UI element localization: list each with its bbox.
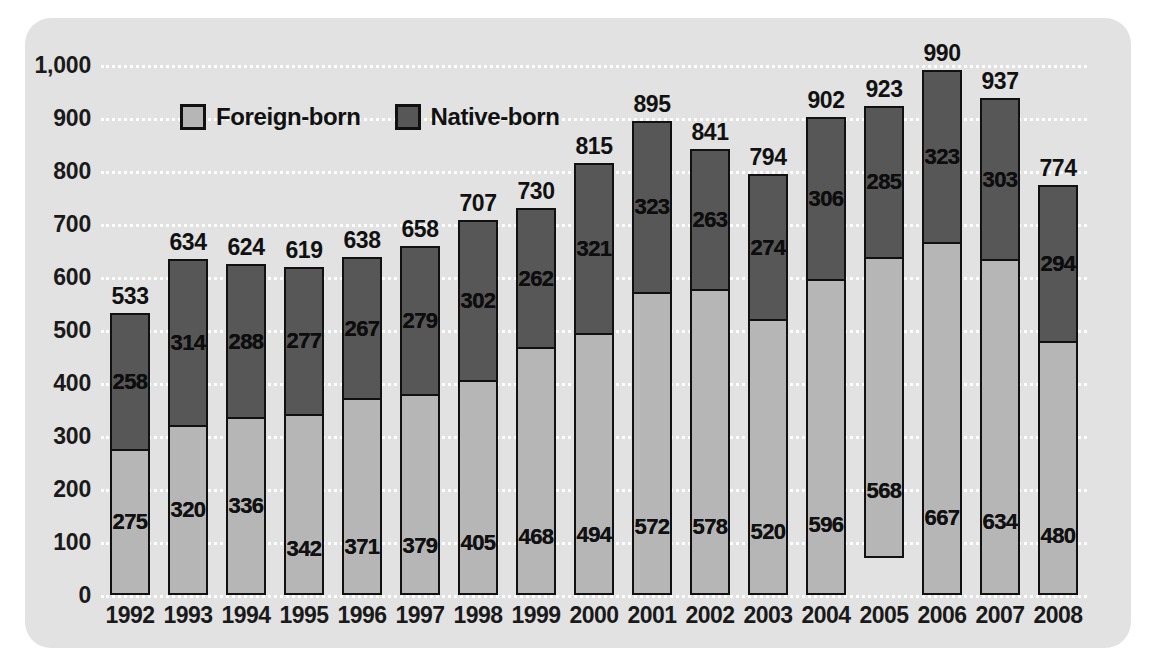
- x-axis-tick-label: 2000: [569, 602, 618, 629]
- bar-column[interactable]: 6343143201993: [168, 259, 208, 595]
- bar-segment-native-born[interactable]: 302: [458, 220, 498, 380]
- bar-segment-value-foreign-born: 320: [170, 499, 205, 521]
- bar-segment-foreign-born[interactable]: 342: [284, 414, 324, 595]
- x-axis-tick-label: 1999: [511, 602, 560, 629]
- bar-segment-value-foreign-born: 405: [460, 532, 495, 554]
- bar-segment-native-born[interactable]: 267: [342, 257, 382, 399]
- bar-segment-value-native-born: 294: [1040, 253, 1075, 275]
- bar-segment-value-native-born: 323: [634, 196, 669, 218]
- bar-column[interactable]: 5332582751992: [110, 313, 150, 595]
- x-axis-tick-label: 1998: [453, 602, 502, 629]
- bar-segment-foreign-born[interactable]: 520: [748, 319, 788, 595]
- bar-stack[interactable]: 624288336: [226, 264, 266, 595]
- bar-segment-value-foreign-born: 520: [750, 521, 785, 543]
- bar-stack[interactable]: 533258275: [110, 313, 150, 595]
- chart-panel: Foreign-born Native-born 010020030040050…: [25, 18, 1131, 648]
- legend-item-native-born[interactable]: Native-born: [395, 103, 560, 131]
- bar-segment-native-born[interactable]: 285: [864, 106, 904, 257]
- bar-segment-native-born[interactable]: 321: [574, 163, 614, 333]
- bar-column[interactable]: 7942745202003: [748, 174, 788, 595]
- bar-total-label: 707: [460, 190, 497, 217]
- bar-segment-native-born[interactable]: 323: [632, 121, 672, 292]
- bar-segment-foreign-born[interactable]: 405: [458, 380, 498, 595]
- bar-segment-foreign-born[interactable]: 572: [632, 292, 672, 595]
- bar-segment-native-born[interactable]: 262: [516, 208, 556, 347]
- bar-stack[interactable]: 634314320: [168, 259, 208, 595]
- bar-column[interactable]: 6192773421995: [284, 267, 324, 595]
- x-axis-tick-label: 1995: [279, 602, 328, 629]
- bar-segment-foreign-born[interactable]: 667: [922, 242, 962, 596]
- bar-segment-foreign-born[interactable]: 634: [980, 259, 1020, 595]
- bar-column[interactable]: 8153214942000: [574, 163, 614, 595]
- bar-column[interactable]: 6382673711996: [342, 257, 382, 595]
- bar-column[interactable]: 8412635782002: [690, 149, 730, 595]
- bar-column[interactable]: 9903236672006: [922, 70, 962, 595]
- bar-segment-foreign-born[interactable]: 578: [690, 289, 730, 595]
- bar-segment-foreign-born[interactable]: 320: [168, 425, 208, 595]
- legend-swatch-native-born-icon: [395, 104, 421, 130]
- bar-total-label: 815: [576, 133, 613, 160]
- bar-segment-foreign-born[interactable]: 336: [226, 417, 266, 595]
- bar-segment-value-foreign-born: 578: [692, 516, 727, 538]
- bar-segment-native-born[interactable]: 323: [922, 70, 962, 241]
- bar-segment-native-born[interactable]: 303: [980, 98, 1020, 259]
- bar-segment-native-born[interactable]: 314: [168, 259, 208, 425]
- bar-segment-foreign-born[interactable]: 596: [806, 279, 846, 595]
- bar-segment-native-born[interactable]: 263: [690, 149, 730, 288]
- legend-swatch-foreign-born-icon: [180, 104, 206, 130]
- bar-stack[interactable]: 895323572: [632, 121, 672, 595]
- bar-segment-native-born[interactable]: 279: [400, 246, 440, 394]
- y-axis-tick-label: 300: [53, 423, 91, 450]
- bar-total-label: 619: [286, 237, 323, 264]
- bar-stack[interactable]: 794274520: [748, 174, 788, 595]
- bar-column[interactable]: 9023065962004: [806, 117, 846, 595]
- bar-column[interactable]: 8953235722001: [632, 121, 672, 595]
- legend-item-foreign-born[interactable]: Foreign-born: [180, 103, 361, 131]
- y-axis-tick-label: 900: [53, 105, 91, 132]
- bar-segment-foreign-born[interactable]: 371: [342, 398, 382, 595]
- bar-segment-foreign-born[interactable]: 468: [516, 347, 556, 595]
- bar-segment-value-foreign-born: 480: [1040, 525, 1075, 547]
- bar-stack[interactable]: 774294480: [1038, 185, 1078, 595]
- bar-column[interactable]: 6582793791997: [400, 246, 440, 595]
- bar-total-label: 841: [692, 119, 729, 146]
- bar-total-label: 794: [750, 144, 787, 171]
- bar-segment-native-born[interactable]: 258: [110, 313, 150, 450]
- bar-segment-native-born[interactable]: 277: [284, 267, 324, 414]
- x-axis-tick-label: 1992: [105, 602, 154, 629]
- bar-total-label: 638: [344, 227, 381, 254]
- bar-stack[interactable]: 619277342: [284, 267, 324, 595]
- bar-stack[interactable]: 730262468: [516, 208, 556, 595]
- bar-column[interactable]: 7302624681999: [516, 208, 556, 595]
- bar-segment-value-foreign-born: 596: [808, 514, 843, 536]
- bar-segment-native-born[interactable]: 306: [806, 117, 846, 279]
- bar-stack[interactable]: 707302405: [458, 220, 498, 595]
- bar-segment-value-foreign-born: 468: [518, 526, 553, 548]
- bar-segment-foreign-born[interactable]: 494: [574, 333, 614, 595]
- x-axis-tick-label: 2005: [859, 602, 908, 629]
- bar-segment-native-born[interactable]: 274: [748, 174, 788, 319]
- bar-segment-native-born[interactable]: 288: [226, 264, 266, 417]
- bar-stack[interactable]: 902306596: [806, 117, 846, 595]
- bar-stack[interactable]: 990323667: [922, 70, 962, 595]
- bar-segment-value-native-born: 303: [982, 169, 1017, 191]
- bar-segment-foreign-born[interactable]: 379: [400, 394, 440, 595]
- bar-segment-foreign-born[interactable]: 568: [864, 257, 904, 558]
- bar-segment-value-native-born: 314: [170, 332, 205, 354]
- bar-segment-foreign-born[interactable]: 480: [1038, 341, 1078, 595]
- bar-stack[interactable]: 815321494: [574, 163, 614, 595]
- bar-column[interactable]: 6242883361994: [226, 264, 266, 595]
- bar-stack[interactable]: 937303634: [980, 98, 1020, 595]
- bar-stack[interactable]: 841263578: [690, 149, 730, 595]
- bar-column[interactable]: 7073024051998: [458, 220, 498, 595]
- bar-segment-value-native-born: 306: [808, 188, 843, 210]
- bar-stack[interactable]: 923285568: [864, 106, 904, 595]
- bar-segment-value-native-born: 258: [112, 371, 147, 393]
- bar-column[interactable]: 7742944802008: [1038, 185, 1078, 595]
- bar-segment-native-born[interactable]: 294: [1038, 185, 1078, 341]
- bar-stack[interactable]: 658279379: [400, 246, 440, 595]
- bar-stack[interactable]: 638267371: [342, 257, 382, 595]
- bar-segment-foreign-born[interactable]: 275: [110, 449, 150, 595]
- bar-column[interactable]: 9232855682005: [864, 106, 904, 595]
- bar-column[interactable]: 9373036342007: [980, 98, 1020, 595]
